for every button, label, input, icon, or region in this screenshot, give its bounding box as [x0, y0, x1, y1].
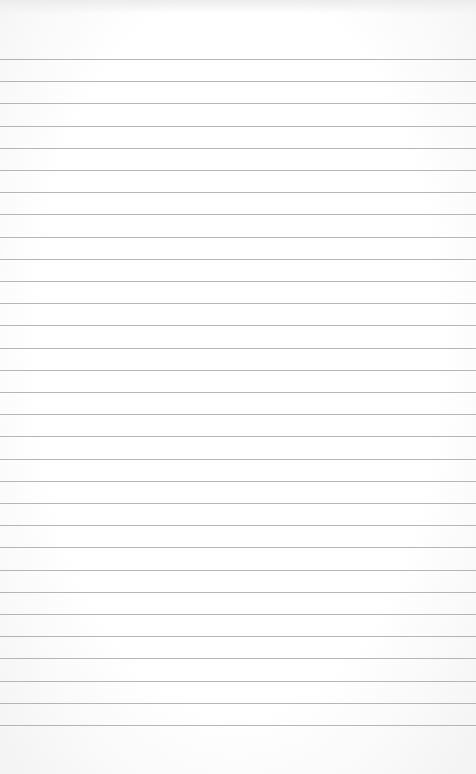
ruled-line	[0, 170, 476, 171]
ruled-line	[0, 370, 476, 371]
ruled-line	[0, 103, 476, 104]
ruled-line	[0, 481, 476, 482]
ruled-line	[0, 636, 476, 637]
ruled-line	[0, 436, 476, 437]
ruled-line	[0, 259, 476, 260]
ruled-line	[0, 192, 476, 193]
ruled-line	[0, 237, 476, 238]
ruled-line	[0, 703, 476, 704]
notepad-page	[0, 0, 476, 774]
ruled-line	[0, 148, 476, 149]
ruled-line	[0, 503, 476, 504]
ruled-line	[0, 281, 476, 282]
ruled-line	[0, 59, 476, 60]
ruled-line	[0, 325, 476, 326]
ruled-line	[0, 547, 476, 548]
ruled-line	[0, 303, 476, 304]
ruled-line	[0, 392, 476, 393]
ruled-line	[0, 592, 476, 593]
ruled-line	[0, 348, 476, 349]
ruled-line	[0, 414, 476, 415]
ruled-line	[0, 81, 476, 82]
ruled-line	[0, 681, 476, 682]
ruled-line	[0, 658, 476, 659]
ruled-line	[0, 725, 476, 726]
ruled-line	[0, 459, 476, 460]
ruled-line	[0, 525, 476, 526]
ruled-line	[0, 614, 476, 615]
ruled-line	[0, 570, 476, 571]
ruled-line	[0, 214, 476, 215]
ruled-line	[0, 126, 476, 127]
page-top-edge	[0, 0, 476, 14]
